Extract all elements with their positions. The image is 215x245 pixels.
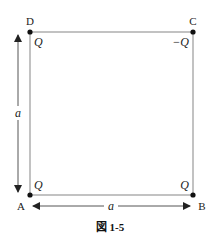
figure-caption: 図 1-5 <box>96 220 125 233</box>
square-charge-diagram: a a D C A B Q −Q Q Q 図 1-5 <box>0 0 215 245</box>
charge-label-a: Q <box>34 178 43 192</box>
corner-dot-c <box>190 29 195 34</box>
vertical-dimension-label: a <box>15 106 21 120</box>
corner-dot-a <box>27 192 32 197</box>
square-outline <box>30 32 193 195</box>
charge-label-c: −Q <box>172 35 189 49</box>
vertex-label-d: D <box>26 15 34 27</box>
horizontal-dimension-label: a <box>108 199 114 213</box>
vertex-label-b: B <box>198 200 205 212</box>
charge-label-b: Q <box>180 178 189 192</box>
corner-dot-b <box>190 192 195 197</box>
vertex-label-a: A <box>17 200 25 212</box>
corner-dot-d <box>27 29 32 34</box>
vertex-label-c: C <box>189 15 196 27</box>
charge-label-d: Q <box>34 35 43 49</box>
